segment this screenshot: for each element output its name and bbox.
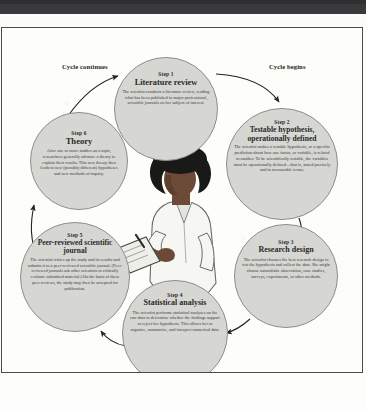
step1-title: Literature review bbox=[121, 78, 211, 87]
step1-number: Step 1 bbox=[121, 71, 211, 77]
step6-body: After one or more studies on a topic, re… bbox=[37, 148, 121, 177]
step-bubble-testable-hypothesis[interactable]: Step 2 Testable hypothesis, operationall… bbox=[226, 108, 338, 220]
step2-title: Testable hypothesis, operationally defin… bbox=[233, 126, 331, 143]
label-cycle-continues: Cycle continues bbox=[62, 63, 108, 70]
step2-body: The scientist makes a testable hypothesi… bbox=[233, 144, 331, 173]
step-bubble-theory[interactable]: Step 6 Theory After one or more studies … bbox=[30, 112, 128, 210]
step-bubble-peer-reviewed-journal[interactable]: Step 5 Peer-reviewed scientific journal … bbox=[20, 222, 130, 332]
step3-body: The scientist chooses the best research … bbox=[241, 257, 331, 280]
scan-gap bbox=[0, 14, 366, 27]
step5-title: Peer-reviewed scientific journal bbox=[27, 239, 123, 255]
step-bubble-research-design[interactable]: Step 3 Research design The scientist cho… bbox=[234, 224, 338, 328]
arrow-step3-to-step4 bbox=[226, 319, 250, 333]
scan-header-band bbox=[0, 0, 366, 14]
figure-page: Cycle continues Cycle begins bbox=[0, 0, 366, 411]
figure-frame: Cycle continues Cycle begins bbox=[1, 27, 363, 373]
label-cycle-begins: Cycle begins bbox=[269, 63, 306, 70]
step5-body: The scientist writes up the study and it… bbox=[27, 257, 123, 291]
scan-header-band-shadow bbox=[0, 0, 366, 4]
arrow-step6-to-step1 bbox=[68, 76, 118, 116]
step4-title: Statistical analysis bbox=[129, 299, 221, 308]
step4-body: The scientist performs statistical analy… bbox=[129, 310, 221, 333]
step3-title: Research design bbox=[241, 246, 331, 255]
step6-title: Theory bbox=[37, 137, 121, 146]
arrow-step1-to-step2 bbox=[216, 74, 279, 102]
step-bubble-literature-review[interactable]: Step 1 Literature review The scientist c… bbox=[114, 57, 218, 161]
step1-body: The scientist conducts a literature revi… bbox=[121, 89, 211, 106]
